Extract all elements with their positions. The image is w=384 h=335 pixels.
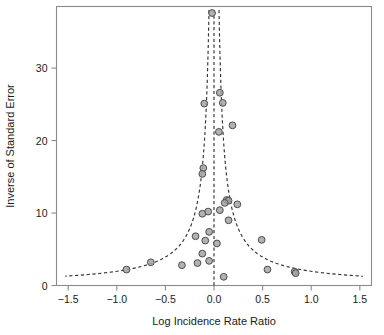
x-axis-ticks: −1.5−1.0−0.50.00.51.01.5 [58,286,367,305]
data-point [123,266,130,273]
data-point [199,210,206,217]
x-tick-label: 1.5 [353,293,368,305]
y-axis-title: Inverse of Standard Error [4,84,16,208]
data-point [194,260,201,267]
x-tick-label: −0.5 [155,293,176,305]
data-point [216,207,223,214]
data-point [258,236,265,243]
data-point [229,122,236,129]
data-point [215,128,222,135]
funnel-plot-svg: −1.5−1.0−0.50.00.51.01.5 0102030 Log Inc… [0,0,384,335]
y-tick-label: 30 [36,62,48,74]
data-point [234,201,241,208]
data-point [206,228,213,235]
data-points-group [123,10,299,281]
data-point [206,257,213,264]
data-point [179,262,186,269]
y-tick-label: 0 [42,280,48,292]
x-tick-label: 1.0 [304,293,319,305]
data-point [225,217,232,224]
data-point [199,250,206,257]
data-point [264,266,271,273]
data-point [214,240,221,247]
data-point [147,259,154,266]
x-tick-label: 0.5 [255,293,270,305]
x-tick-label: −1.5 [58,293,79,305]
data-point [209,10,216,17]
data-point [216,89,223,96]
data-point [220,273,227,280]
data-point [201,100,208,107]
y-axis-ticks: 0102030 [36,62,57,291]
x-tick-label: −1.0 [106,293,127,305]
data-point [219,99,226,106]
funnel-right-curve [219,10,363,276]
data-point [199,171,206,178]
data-point [202,237,209,244]
x-tick-label: 0.0 [207,293,222,305]
funnel-left-curve [65,10,209,276]
funnel-plot-figure: −1.5−1.0−0.50.00.51.01.5 0102030 Log Inc… [0,0,384,335]
x-axis-title: Log Incidence Rate Ratio [152,315,276,327]
y-tick-label: 10 [36,207,48,219]
data-point [292,270,299,277]
data-point [192,233,199,240]
data-point [221,199,228,206]
y-tick-label: 20 [36,135,48,147]
